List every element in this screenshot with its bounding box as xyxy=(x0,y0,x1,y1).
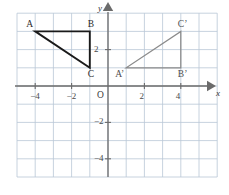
y-axis-name-label: y xyxy=(98,4,102,13)
vertex-label-B: B xyxy=(88,20,94,30)
y-axis-arrow xyxy=(103,2,113,11)
y-tick-label--4: −4 xyxy=(94,154,104,163)
vertex-label-C-prime: C’ xyxy=(178,20,188,30)
origin-label: O xyxy=(97,91,104,101)
grid-lines xyxy=(17,13,217,177)
y-tick-label--2: −2 xyxy=(94,117,104,126)
x-tick-label-4: 4 xyxy=(176,92,181,101)
x-tick-label--4: −4 xyxy=(30,92,40,101)
y-tick-label-2: 2 xyxy=(94,45,99,54)
x-axis-name-label: x xyxy=(216,89,220,98)
x-tick-label--2: −2 xyxy=(67,92,77,101)
x-tick-label-2: 2 xyxy=(139,92,144,101)
coordinate-plane-figure: −4−2242−2−4xyOABCA’B’C’ xyxy=(0,0,229,195)
vertex-label-A-prime: A’ xyxy=(115,70,124,80)
vertex-label-B-prime: B’ xyxy=(178,70,188,80)
vertex-label-C: C xyxy=(88,70,94,80)
vertex-label-A: A xyxy=(26,20,33,30)
x-axis-arrow xyxy=(207,81,216,91)
